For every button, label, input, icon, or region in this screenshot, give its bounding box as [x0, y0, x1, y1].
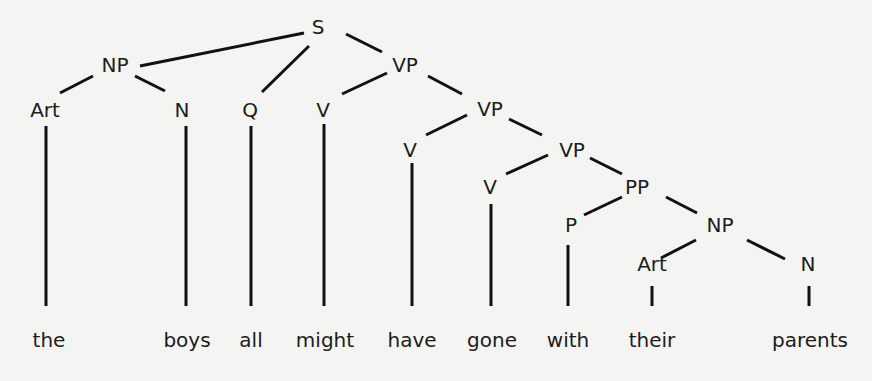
edge-vp3-v3	[506, 155, 548, 174]
node-p: P	[565, 213, 577, 237]
word-parents: parents	[772, 328, 848, 352]
node-vp1: VP	[392, 53, 418, 77]
edge-s-np1	[140, 33, 304, 66]
node-np1: NP	[101, 53, 128, 77]
edge-vp3-pp	[590, 158, 622, 174]
word-with: with	[547, 328, 589, 352]
node-art2: Art	[637, 252, 667, 276]
terminal-words: theboysallmighthavegonewiththeirparents	[33, 328, 848, 352]
word-might: might	[296, 328, 354, 352]
node-n1: N	[175, 98, 190, 122]
word-boys: boys	[163, 328, 210, 352]
node-s: S	[312, 15, 325, 39]
edge-np1-art1	[60, 76, 93, 93]
node-pp: PP	[625, 175, 649, 199]
node-v1: V	[316, 98, 330, 122]
node-vp3: VP	[559, 138, 585, 162]
word-the: the	[33, 328, 66, 352]
node-art1: Art	[30, 98, 60, 122]
edge-pp-p	[584, 197, 622, 215]
syntax-tree-diagram: SNPVPArtNQVVPVVPVPPPNPArtN theboysallmig…	[0, 0, 872, 381]
node-v2: V	[403, 138, 417, 162]
node-vp2: VP	[477, 97, 503, 121]
edge-vp2-v2	[426, 115, 467, 135]
edge-vp1-vp2	[428, 76, 462, 94]
node-n2: N	[801, 252, 816, 276]
edge-s-q	[262, 46, 309, 92]
edge-vp2-vp3	[509, 119, 542, 135]
word-all: all	[239, 328, 262, 352]
edge-vp1-v1	[342, 73, 387, 94]
node-v3: V	[483, 175, 497, 199]
edge-np2-n2	[747, 240, 785, 259]
tree-nodes: SNPVPArtNQVVPVVPVPPPNPArtN	[30, 15, 815, 276]
edge-pp-np2	[666, 197, 697, 213]
word-their: their	[629, 328, 676, 352]
node-np2: NP	[706, 213, 733, 237]
word-have: have	[387, 328, 436, 352]
edge-np1-n1	[135, 76, 165, 91]
word-gone: gone	[467, 328, 517, 352]
tree-edges	[46, 33, 809, 306]
node-q: Q	[242, 98, 258, 122]
edge-s-vp1	[346, 34, 382, 52]
